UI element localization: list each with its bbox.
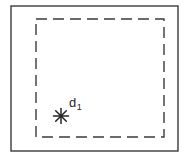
star-marker-icon — [54, 109, 69, 124]
marker-label-subscript: 1 — [76, 102, 82, 112]
marker-label-d1: d1 — [69, 96, 82, 112]
diagram-vector-layer — [0, 0, 189, 160]
diagram-canvas: d1 — [0, 0, 189, 160]
inner-dashed-boundary-rect — [36, 19, 164, 137]
